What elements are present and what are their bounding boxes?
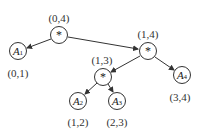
node-n13: * [94, 68, 112, 86]
node-a3: A3 [108, 92, 126, 110]
node-a2-sub: 2 [80, 99, 84, 107]
node-a4-name: A [177, 69, 184, 81]
operator-star: * [145, 45, 151, 57]
node-a3-name: A [112, 95, 119, 107]
node-n14: * [139, 42, 157, 60]
edge-root-a1 [27, 39, 51, 48]
edge-n13-a2 [85, 83, 97, 94]
node-a4: A4 [173, 66, 191, 84]
label-a3: (2,3) [106, 117, 127, 128]
node-a2-name: A [73, 95, 80, 107]
label-root: (0,4) [48, 13, 69, 24]
label-n14: (1,4) [137, 29, 158, 40]
operator-star: * [56, 29, 62, 41]
node-a1-name: A [13, 45, 20, 57]
node-a1: A1 [9, 42, 27, 60]
node-root: * [50, 26, 68, 44]
node-a2: A2 [69, 92, 87, 110]
label-n13: (1,3) [91, 55, 112, 66]
edge-n14-a4 [155, 57, 174, 70]
label-a4: (3,4) [169, 92, 190, 103]
node-a1-sub: 1 [20, 49, 24, 57]
edge-n14-n13 [111, 56, 140, 72]
node-a3-sub: 3 [119, 99, 123, 107]
label-a2: (1,2) [67, 117, 88, 128]
operator-star: * [100, 71, 106, 83]
edge-n13-a3 [108, 84, 113, 92]
edge-root-n14 [68, 37, 138, 49]
node-a4-sub: 4 [184, 73, 188, 81]
label-a1: (0,1) [7, 68, 28, 79]
